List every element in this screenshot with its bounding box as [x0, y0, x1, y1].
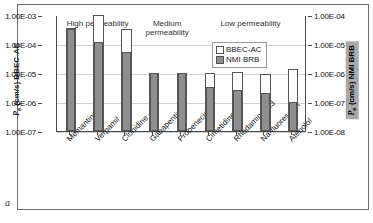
bar-nmi-brb	[206, 87, 215, 131]
bar-nmi-brb	[261, 93, 270, 131]
bar-nmi-brb	[122, 52, 131, 131]
bar-nmi-brb	[289, 102, 298, 131]
figure-panel: a Pe (cm/s) BBEC-AC Pe (cm/s) NMI BRB 1.…	[0, 0, 373, 223]
bar-nmi-brb	[94, 42, 103, 131]
bar-nmi-brb	[178, 73, 187, 131]
bar-nmi-brb	[150, 73, 159, 131]
bar-nmi-brb	[233, 90, 242, 131]
bar-nmi-brb	[67, 29, 76, 131]
